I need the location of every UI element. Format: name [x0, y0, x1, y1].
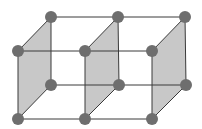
lattice-node-bt0: [45, 11, 57, 23]
lattice-node-ft2: [146, 45, 158, 57]
shaded-faces: [18, 17, 186, 119]
lattice-node-ft1: [79, 45, 91, 57]
lattice-node-bt1: [112, 11, 124, 23]
lattice-node-ft0: [12, 45, 24, 57]
lattice-node-bb1: [113, 79, 125, 91]
lattice-diagram: [0, 0, 202, 129]
lattice-node-bb2: [180, 79, 192, 91]
lattice-node-bb0: [45, 79, 57, 91]
lattice-node-bt2: [179, 11, 191, 23]
lattice-node-fb0: [12, 113, 24, 125]
lattice-node-fb2: [146, 113, 158, 125]
lattice-node-fb1: [79, 113, 91, 125]
shaded-face-1: [85, 17, 119, 119]
shaded-face-2: [152, 17, 186, 119]
shaded-face-0: [18, 17, 51, 119]
